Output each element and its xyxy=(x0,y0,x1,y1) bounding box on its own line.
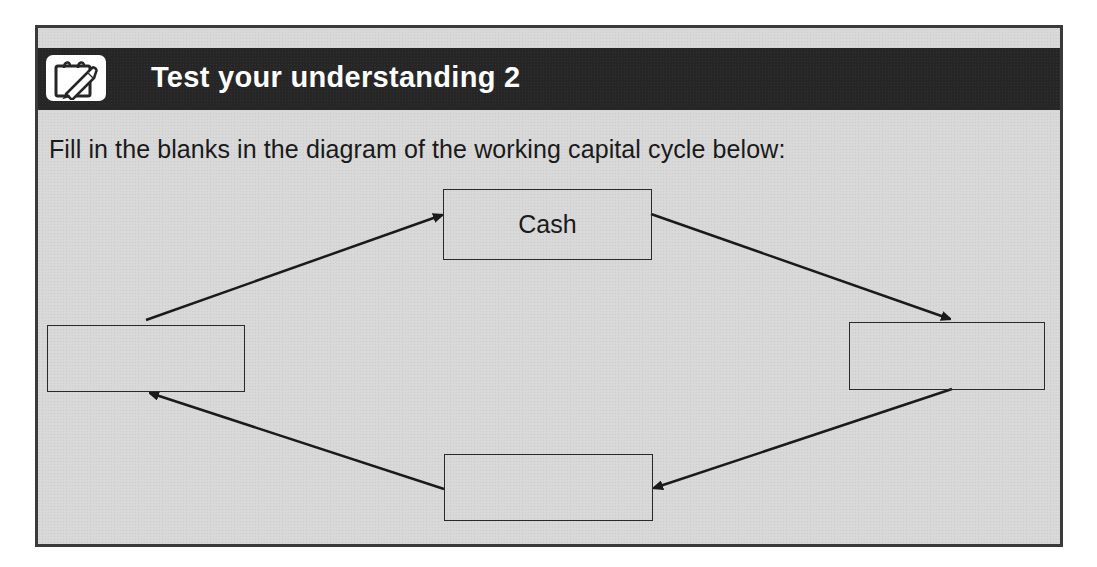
cycle-box-right-blank[interactable] xyxy=(849,322,1045,390)
arrow-right-to-bottom xyxy=(654,389,952,488)
exercise-panel: Test your understanding 2 Fill in the bl… xyxy=(35,25,1063,547)
cycle-box-cash-label: Cash xyxy=(518,210,576,239)
arrow-bottom-to-left xyxy=(150,393,444,489)
cycle-box-bottom-blank[interactable] xyxy=(444,454,653,521)
cycle-box-left-blank[interactable] xyxy=(47,325,245,392)
cycle-box-cash: Cash xyxy=(443,189,652,260)
arrow-left-to-top xyxy=(146,215,442,320)
arrow-top-to-right xyxy=(651,214,950,319)
